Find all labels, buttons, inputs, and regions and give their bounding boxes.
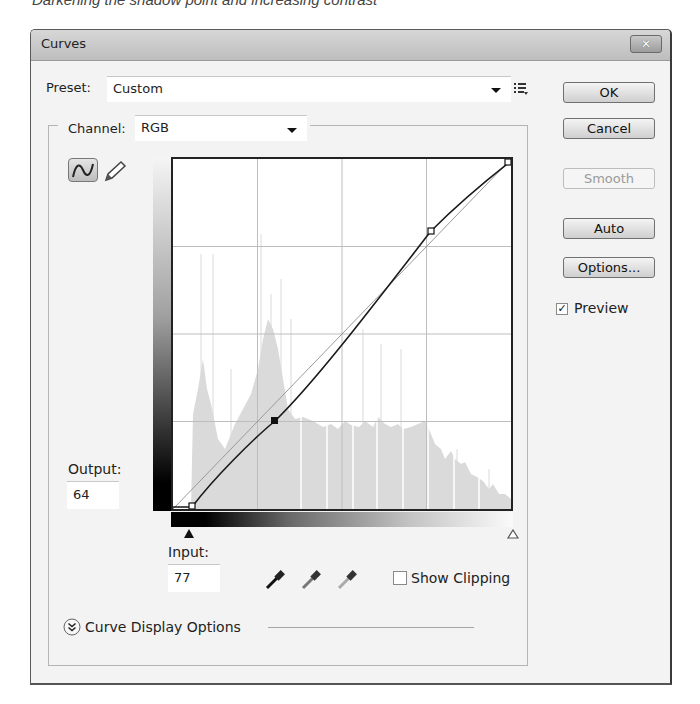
preset-value: Custom [113, 81, 163, 96]
chevron-down-icon [491, 88, 501, 93]
channel-dropdown[interactable]: RGB [135, 115, 307, 141]
smooth-button[interactable]: Smooth [563, 168, 655, 189]
input-field[interactable]: 77 [168, 564, 220, 592]
preset-label: Preset: [46, 80, 91, 95]
options-button[interactable]: Options... [563, 257, 655, 278]
curve-point[interactable] [189, 503, 195, 509]
preset-dropdown[interactable]: Custom [107, 76, 511, 102]
close-icon[interactable]: ✕ [630, 35, 662, 53]
pencil-icon[interactable] [102, 159, 128, 183]
output-field[interactable]: 64 [67, 481, 119, 509]
dialog-title: Curves [41, 36, 86, 51]
cancel-button[interactable]: Cancel [563, 118, 655, 139]
input-gradient-bar [171, 512, 513, 527]
channel-value: RGB [141, 120, 169, 135]
output-gradient-bar [153, 157, 171, 511]
curve-point-selected[interactable] [271, 417, 278, 424]
white-point-eyedropper-icon[interactable] [337, 568, 359, 590]
output-label: Output: [68, 461, 121, 477]
show-clipping-checkbox[interactable] [393, 571, 407, 585]
curve-point[interactable] [428, 228, 434, 234]
chevron-down-icon [287, 128, 297, 133]
title-bar[interactable]: Curves ✕ [31, 30, 670, 61]
curve-display-options-label[interactable]: Curve Display Options [85, 619, 241, 635]
curves-graph[interactable] [171, 157, 513, 511]
preset-options-icon[interactable] [513, 82, 529, 96]
black-point-slider[interactable] [183, 529, 195, 540]
curve-point-icon [69, 159, 97, 181]
expand-chevron-icon[interactable] [63, 618, 81, 636]
figure-caption: Darkening the shadow point and increasin… [32, 0, 377, 8]
preview-label: Preview [574, 300, 629, 316]
curve-point[interactable] [505, 159, 511, 165]
preview-checkbox[interactable]: ✓ [556, 303, 568, 315]
black-point-eyedropper-icon[interactable] [265, 568, 287, 590]
ok-button[interactable]: OK [563, 82, 655, 103]
gray-point-eyedropper-icon[interactable] [301, 568, 323, 590]
input-label: Input: [168, 544, 209, 560]
divider [268, 627, 474, 628]
auto-button[interactable]: Auto [563, 218, 655, 239]
channel-label: Channel: [68, 121, 126, 136]
show-clipping-label: Show Clipping [411, 570, 510, 586]
white-point-slider[interactable] [506, 529, 520, 540]
curve-point-tool[interactable] [68, 158, 98, 182]
